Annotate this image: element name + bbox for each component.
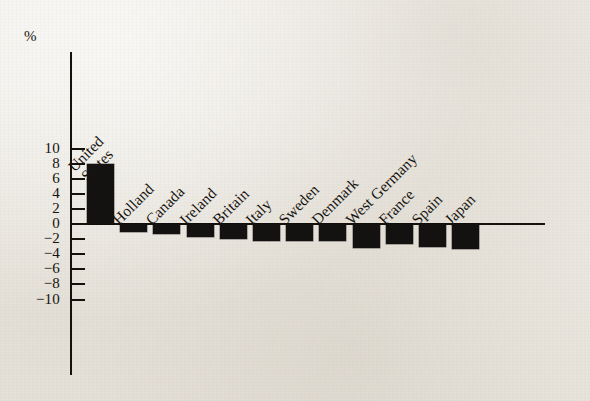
y-tick-label: 2 xyxy=(14,201,60,216)
bar-canada xyxy=(153,224,180,234)
y-tick-4 xyxy=(72,193,85,195)
y-tick-label: −6 xyxy=(14,261,60,276)
y-tick-label: −2 xyxy=(14,231,60,246)
bar-japan xyxy=(452,224,479,249)
y-tick-2 xyxy=(72,208,85,210)
bar-france xyxy=(386,224,413,244)
bar-spain xyxy=(419,224,446,247)
bar-britain xyxy=(220,224,247,239)
bar-west-germany xyxy=(353,224,380,248)
bar-ireland xyxy=(187,224,214,237)
y-tick-neg4 xyxy=(72,253,85,255)
y-axis-unit-label: % xyxy=(24,29,37,44)
bar-italy xyxy=(253,224,280,241)
y-tick-neg2 xyxy=(72,238,85,240)
bar-sweden xyxy=(286,224,313,241)
y-tick-label: 4 xyxy=(14,186,60,201)
y-tick-label: −4 xyxy=(14,246,60,261)
y-axis-line xyxy=(70,52,72,375)
y-tick-0 xyxy=(72,223,85,225)
y-tick-label: 10 xyxy=(14,141,60,156)
bar-denmark xyxy=(319,224,346,241)
y-tick-label: 8 xyxy=(14,156,60,171)
y-tick-neg8 xyxy=(72,283,85,285)
y-tick-label: −8 xyxy=(14,276,60,291)
bar-chart: % 1086420−2−4−6−8−10 UnitedStatesHolland… xyxy=(0,0,590,401)
y-tick-neg6 xyxy=(72,268,85,270)
y-tick-label: 6 xyxy=(14,171,60,186)
y-tick-label: 0 xyxy=(14,216,60,231)
y-tick-label: −10 xyxy=(14,292,60,307)
bar-holland xyxy=(120,224,147,232)
y-tick-neg10 xyxy=(72,299,85,301)
